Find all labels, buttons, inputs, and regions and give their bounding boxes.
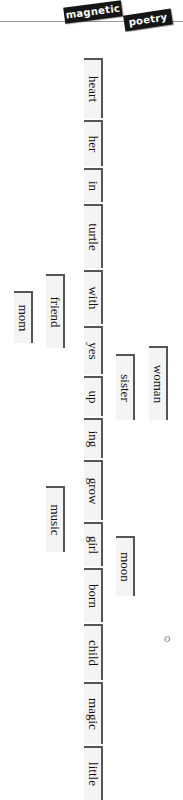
- word-tile-label: born: [86, 584, 99, 608]
- word-tile-label: her: [86, 136, 99, 153]
- word-tile: woman: [149, 346, 168, 420]
- word-tile-label: music: [48, 504, 61, 535]
- word-tile-label: magic: [86, 698, 99, 730]
- word-tile: mom: [14, 291, 33, 343]
- magnet-tile-poetry: poetry: [123, 9, 173, 32]
- word-tile-label: turtle: [86, 223, 99, 250]
- word-tile-label: in: [86, 181, 99, 191]
- page-header: magnetic poetry: [0, 0, 183, 46]
- word-tile: with: [84, 270, 103, 324]
- word-tile-label: moon: [118, 552, 131, 582]
- word-tile: her: [84, 120, 103, 166]
- word-tile: little: [84, 746, 103, 800]
- word-tile: heart: [84, 58, 103, 118]
- word-tile-label: grow: [86, 478, 99, 505]
- word-tile: yes: [84, 326, 103, 374]
- word-tile: girl: [84, 522, 103, 566]
- word-tile-label: friend: [48, 296, 61, 327]
- word-tile: sister: [116, 354, 135, 420]
- word-tile-label: with: [86, 286, 99, 309]
- word-tile-label: child: [86, 640, 99, 666]
- word-tile-label: mom: [16, 305, 29, 332]
- word-tile: in: [84, 168, 103, 202]
- word-tile: moon: [116, 536, 135, 596]
- word-tile: born: [84, 568, 103, 622]
- word-tile-label: girl: [86, 536, 99, 554]
- word-tile: ing: [84, 418, 103, 458]
- word-tile: friend: [46, 274, 65, 348]
- word-tile: grow: [84, 460, 103, 520]
- word-tile-label: up: [86, 391, 99, 404]
- word-tile: up: [84, 376, 103, 416]
- word-tile: turtle: [84, 204, 103, 268]
- scan-artifact-mark: o: [164, 630, 171, 646]
- word-tile: child: [84, 624, 103, 680]
- word-tile-label: ing: [86, 431, 99, 448]
- word-tile-label: heart: [86, 76, 99, 102]
- word-tile-label: woman: [151, 365, 164, 403]
- word-tile-label: little: [86, 762, 99, 786]
- poem-body: momfriendmusicheartherinturtlewithyesupi…: [0, 46, 183, 663]
- word-tile-label: sister: [118, 374, 131, 401]
- word-tile: magic: [84, 682, 103, 744]
- word-tile: music: [46, 486, 65, 552]
- word-tile-label: yes: [86, 342, 99, 359]
